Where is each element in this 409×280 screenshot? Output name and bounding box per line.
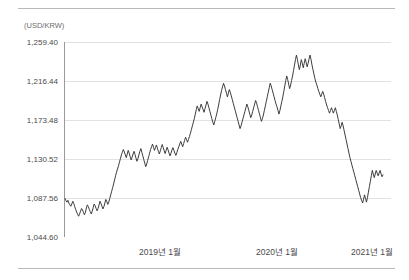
series-line-usd-krw <box>65 55 383 216</box>
chart-figure: (USD/KRW) 1,259.401,216.441,173.481,130.… <box>0 0 409 280</box>
plot-area <box>64 42 391 237</box>
x-axis-tick-label: 2020년 1월 <box>256 245 298 257</box>
x-axis-tick-label: 2019년 1월 <box>139 245 181 257</box>
line-chart-svg <box>64 42 391 237</box>
axis-ticks <box>64 43 373 238</box>
x-axis-tick-label: 2021년 1월 <box>351 245 393 257</box>
gridlines <box>64 42 391 237</box>
